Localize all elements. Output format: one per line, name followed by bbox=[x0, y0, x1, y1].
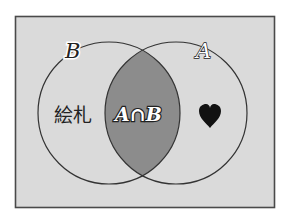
venn-diagram: B B A 絵札 A∩B bbox=[0, 0, 292, 223]
set-a-label: A bbox=[194, 39, 211, 63]
face-cards-label: 絵札 bbox=[54, 104, 92, 126]
set-b-label: B bbox=[64, 39, 80, 63]
intersection-label: A∩B bbox=[113, 103, 162, 125]
